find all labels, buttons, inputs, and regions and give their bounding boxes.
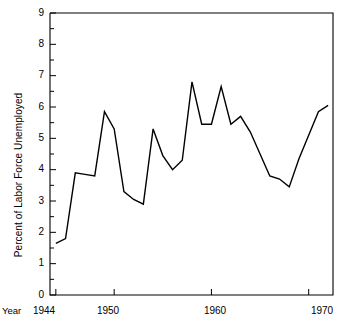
unemployment-line-chart: Percent of Labor Force Unemployed 9 8 7 … (0, 0, 355, 323)
axis-frame (50, 13, 333, 295)
plot-canvas (0, 0, 355, 323)
data-series-line (56, 82, 328, 243)
tick-marks (50, 13, 309, 295)
